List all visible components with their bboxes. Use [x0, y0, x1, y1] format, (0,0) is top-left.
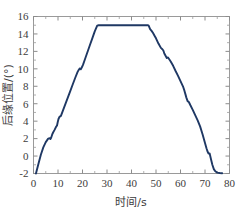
x-axis-title: 时间/s [115, 196, 147, 209]
y-axis-tick-labels: -20246810121416 [18, 10, 30, 179]
y-tick-label: -2 [19, 167, 28, 179]
x-tick-label: 50 [151, 177, 163, 189]
y-tick-label: 4 [23, 115, 29, 127]
x-tick-label: 20 [77, 177, 89, 189]
x-tick-label: 30 [102, 177, 114, 189]
x-tick-label: 40 [126, 177, 138, 189]
data-series-line [36, 25, 222, 173]
x-tick-label: 0 [31, 177, 37, 189]
chart-figure: 01020304050607080 -20246810121416 时间/s 后… [0, 0, 250, 215]
y-tick-label: 10 [18, 63, 30, 75]
x-tick-label: 80 [224, 177, 236, 189]
y-tick-label: 8 [23, 80, 29, 92]
y-tick-label: 0 [23, 150, 29, 162]
y-tick-label: 14 [18, 28, 30, 40]
x-tick-label: 60 [175, 177, 187, 189]
y-tick-label: 12 [18, 45, 29, 57]
line-chart: 01020304050607080 -20246810121416 时间/s 后… [0, 0, 250, 215]
x-axis-tick-labels: 01020304050607080 [31, 177, 236, 189]
x-tick-label: 70 [200, 177, 212, 189]
x-tick-label: 10 [53, 177, 65, 189]
plot-frame [34, 17, 230, 174]
y-tick-label: 6 [23, 98, 29, 110]
x-axis-ticks [34, 17, 230, 174]
y-tick-label: 16 [18, 10, 30, 22]
y-axis-ticks [34, 17, 230, 174]
y-axis-title: 后缘位置/(°) [1, 64, 15, 126]
y-tick-label: 2 [23, 132, 29, 144]
